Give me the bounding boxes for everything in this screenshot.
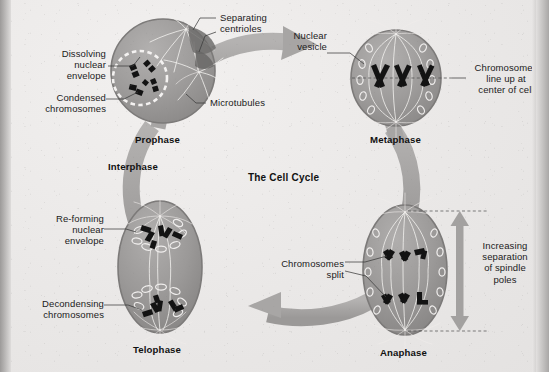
label-chromosomes-line-up: Chromosomes line up at center of cell [466, 62, 546, 96]
phase-label-interphase: Interphase [108, 161, 158, 172]
label-decondensing-chromosomes: Decondensing chromosomes [10, 298, 104, 320]
figure-title: The Cell Cycle [248, 172, 319, 183]
cell-telophase [118, 197, 202, 349]
label-increasing-separation: Increasing separation of spindle poles [472, 240, 538, 285]
figure-canvas: .mt{stroke:#f3f1ef;fill:none;stroke-widt… [0, 0, 549, 372]
cell-prophase [111, 14, 224, 123]
phase-label-anaphase: Anaphase [380, 347, 427, 358]
label-nuclear-vesicle: Nuclear vesicle [265, 30, 327, 52]
phase-label-telophase: Telophase [133, 344, 181, 355]
label-condensed-chromosomes: Condensed chromosomes [18, 92, 106, 114]
phase-label-prophase: Prophase [135, 134, 180, 145]
label-chromosomes-split: Chromosomes split [262, 258, 344, 280]
cell-metaphase [351, 15, 452, 141]
label-dissolving-nuclear-envelope: Dissolving nuclear envelope [26, 48, 106, 82]
label-reforming-nuclear-envelope: Re-forming nuclear envelope [24, 213, 104, 247]
label-microtubules: Microtubules [210, 97, 290, 108]
phase-label-metaphase: Metaphase [370, 134, 421, 145]
cell-anaphase [363, 193, 447, 349]
chromosomes-anaphase-lower [381, 292, 428, 305]
